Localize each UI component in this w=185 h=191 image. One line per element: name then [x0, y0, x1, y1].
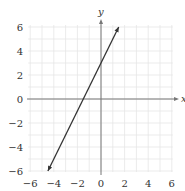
y-tick-label: −2	[8, 118, 23, 129]
x-axis-label: x	[181, 93, 185, 104]
x-tick-label: 2	[121, 178, 127, 189]
y-tick-label: −4	[8, 142, 23, 153]
x-tick-label: 4	[145, 178, 151, 189]
y-axis-arrow-icon	[99, 19, 103, 24]
x-tick-label: −2	[70, 178, 85, 189]
axes	[27, 19, 179, 175]
x-tick-label: −4	[46, 178, 61, 189]
y-axis-label: y	[97, 6, 104, 17]
y-tick-label: −6	[8, 166, 23, 177]
x-axis-arrow-icon	[174, 97, 179, 101]
x-tick-label: 0	[98, 178, 104, 189]
y-tick-label: 2	[17, 70, 23, 81]
x-tick-labels: −6−4−20246	[23, 178, 175, 189]
y-tick-labels: −6−4−20246	[8, 22, 23, 177]
x-tick-label: −6	[23, 178, 38, 189]
coordinate-plane: −6−4−20246 −6−4−20246 x y	[0, 0, 185, 191]
y-tick-label: 0	[17, 94, 23, 105]
y-tick-label: 4	[17, 46, 23, 57]
y-tick-label: 6	[17, 22, 23, 33]
x-tick-label: 6	[169, 178, 175, 189]
